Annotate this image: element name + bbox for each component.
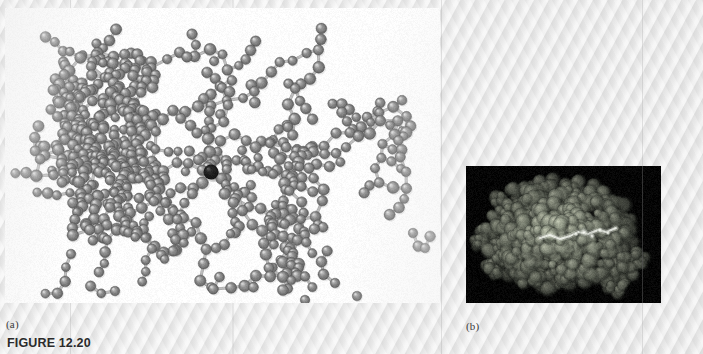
panel-a-ball-and-stick bbox=[5, 8, 440, 303]
space-filling-molecule-canvas bbox=[466, 166, 661, 303]
panel-b-label: (b) bbox=[466, 320, 479, 332]
scan-streak bbox=[441, 0, 442, 354]
panel-b-space-filling bbox=[466, 166, 661, 303]
figure-caption: FIGURE 12.20 bbox=[7, 336, 91, 350]
scanned-page: (a) (b) FIGURE 12.20 bbox=[0, 0, 703, 354]
panel-a-label: (a) bbox=[6, 318, 19, 330]
ball-and-stick-molecule-canvas bbox=[5, 8, 440, 303]
